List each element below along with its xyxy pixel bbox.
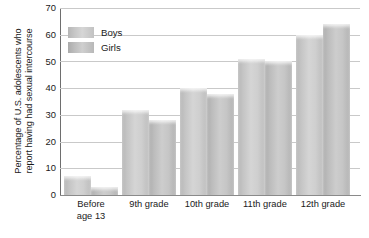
bar-girls-11th-grade[interactable] bbox=[265, 61, 292, 195]
legend-swatch-girls-icon bbox=[68, 42, 94, 53]
bar-girls-9th-grade[interactable] bbox=[149, 120, 176, 195]
x-label-11th-grade: 11th grade bbox=[234, 199, 296, 211]
x-label-11th-grade-line-1: 11th grade bbox=[234, 199, 296, 211]
bar-boys-11th-grade[interactable] bbox=[238, 59, 265, 195]
x-label-10th-grade: 10th grade bbox=[176, 199, 238, 211]
x-label-9th-grade: 9th grade bbox=[118, 199, 180, 211]
legend: Boys Girls bbox=[68, 26, 122, 53]
legend-label-girls: Girls bbox=[101, 42, 121, 53]
y-axis-tick-labels: 70 60 50 40 30 20 10 0 bbox=[30, 0, 56, 238]
y-tick-10: 10 bbox=[30, 163, 56, 173]
legend-item-girls[interactable]: Girls bbox=[68, 41, 122, 53]
y-tick-0: 0 bbox=[30, 190, 56, 200]
bar-chart: Percentage of U.S. adolescents who repor… bbox=[0, 0, 369, 238]
y-tick-50: 50 bbox=[30, 57, 56, 67]
y-axis-title-line-1: Percentage of U.S. adolescents who bbox=[13, 28, 25, 173]
bar-boys-12th-grade[interactable] bbox=[296, 35, 323, 195]
bar-boys-9th-grade[interactable] bbox=[122, 110, 149, 196]
legend-item-boys[interactable]: Boys bbox=[68, 26, 122, 38]
y-tick-20: 20 bbox=[30, 137, 56, 147]
y-tick-30: 30 bbox=[30, 110, 56, 120]
x-axis-tick-labels: Before age 13 9th grade 10th grade 11th … bbox=[60, 199, 361, 237]
x-label-12th-grade: 12th grade bbox=[292, 199, 354, 211]
y-tick-40: 40 bbox=[30, 83, 56, 93]
x-label-before-age-13-line-2: age 13 bbox=[60, 211, 122, 223]
x-label-10th-grade-line-1: 10th grade bbox=[176, 199, 238, 211]
x-label-12th-grade-line-1: 12th grade bbox=[292, 199, 354, 211]
bar-girls-10th-grade[interactable] bbox=[207, 94, 234, 196]
x-label-before-age-13-line-1: Before bbox=[60, 199, 122, 211]
bar-boys-before-age-13[interactable] bbox=[64, 176, 91, 195]
bar-girls-before-age-13[interactable] bbox=[91, 187, 118, 195]
x-axis-line bbox=[60, 195, 361, 196]
bar-boys-10th-grade[interactable] bbox=[180, 88, 207, 195]
y-tick-70: 70 bbox=[30, 3, 56, 13]
legend-label-boys: Boys bbox=[101, 27, 122, 38]
legend-swatch-boys-icon bbox=[68, 27, 94, 38]
y-tick-60: 60 bbox=[30, 30, 56, 40]
x-label-before-age-13: Before age 13 bbox=[60, 199, 122, 222]
x-label-9th-grade-line-1: 9th grade bbox=[118, 199, 180, 211]
bar-girls-12th-grade[interactable] bbox=[323, 24, 350, 195]
